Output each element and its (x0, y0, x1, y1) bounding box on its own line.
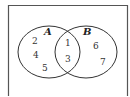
element-4: 4 (33, 50, 39, 60)
element-6: 6 (93, 41, 99, 51)
universe-frame (9, 6, 128, 97)
set-a-label: A (43, 26, 52, 37)
element-2: 2 (32, 36, 38, 46)
venn-diagram: A B 2 4 5 1 3 6 7 (0, 0, 130, 96)
element-5: 5 (42, 63, 48, 73)
element-1: 1 (65, 38, 71, 48)
set-b-label: B (82, 26, 91, 37)
element-7: 7 (100, 57, 106, 67)
element-3: 3 (65, 54, 71, 64)
